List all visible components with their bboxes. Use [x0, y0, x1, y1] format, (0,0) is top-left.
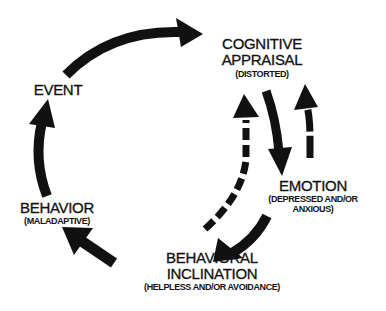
appraisal-title-line2: APPRAISAL [212, 52, 312, 67]
inclination-title-line1: BEHAVIORAL [126, 250, 298, 265]
emotion-subtitle-line2: ANXIOUS) [254, 205, 372, 214]
arrow-appraisal-to-emotion [266, 91, 292, 176]
arrow-behavior-to-event [29, 99, 55, 196]
arrow-inclination-to-behavior [62, 227, 114, 263]
node-event: EVENT [30, 82, 86, 97]
arrow-emotion-to-appraisal-dashed [294, 84, 318, 158]
appraisal-subtitle: (DISTORTED) [212, 70, 312, 79]
behavior-title: BEHAVIOR [14, 200, 100, 215]
node-behavioral-inclination: BEHAVIORAL INCLINATION (HELPLESS AND/OR … [126, 250, 298, 292]
appraisal-title-line1: COGNITIVE [212, 36, 312, 51]
inclination-subtitle: (HELPLESS AND/OR AVOIDANCE) [126, 283, 298, 292]
event-title: EVENT [30, 82, 86, 97]
emotion-title: EMOTION [254, 178, 372, 193]
arrow-inclination-to-appraisal-dashed [205, 94, 259, 229]
inclination-title-line2: INCLINATION [126, 266, 298, 281]
behavior-subtitle: (MALADAPTIVE) [14, 217, 100, 226]
arrow-event-to-appraisal [66, 18, 203, 75]
node-behavior: BEHAVIOR (MALADAPTIVE) [14, 200, 100, 226]
node-emotion: EMOTION (DEPRESSED AND/OR ANXIOUS) [254, 178, 372, 214]
node-cognitive-appraisal: COGNITIVE APPRAISAL (DISTORTED) [212, 36, 312, 79]
emotion-subtitle-line1: (DEPRESSED AND/OR [254, 195, 372, 204]
